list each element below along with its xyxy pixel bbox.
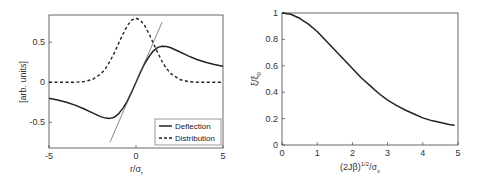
right-ytick-label: 1 <box>273 8 278 18</box>
right-xlabel-sub: x <box>377 168 380 174</box>
right-ylabel: ξ/ξ0 <box>250 71 262 86</box>
right-xtick-label: 4 <box>420 148 425 158</box>
left-chart: -505-0.500.5 Deflection Distribution [ar… <box>18 15 226 176</box>
left-xlabel-main: r/σ <box>130 164 141 174</box>
right-xlabel: (2Jβ)1/2/σx <box>340 161 380 174</box>
left-ytick-label: 0.5 <box>32 37 45 47</box>
left-ytick-label: -0.5 <box>29 117 45 127</box>
right-ytick-label: 0.8 <box>265 34 278 44</box>
left-ylabel: [arb. units] <box>18 61 28 103</box>
left-xtick-label: -5 <box>45 151 53 161</box>
left-xtick-label: 0 <box>133 151 138 161</box>
right-ticks: 01234500.20.40.60.81 <box>265 8 460 158</box>
right-ytick-label: 0.4 <box>265 87 278 97</box>
right-xtick-label: 0 <box>279 148 284 158</box>
right-ylabel-sub: 0 <box>256 71 262 75</box>
right-xtick-label: 2 <box>350 148 355 158</box>
left-xlabel-sub: r <box>141 170 143 176</box>
legend-label-deflection: Deflection <box>175 122 211 131</box>
right-ytick-label: 0.2 <box>265 114 278 124</box>
legend: Deflection Distribution <box>155 119 221 145</box>
left-ytick-label: 0 <box>40 77 45 87</box>
right-xlabel-main: (2Jβ) <box>340 162 361 172</box>
right-ytick-label: 0.6 <box>265 61 278 71</box>
right-plot-frame <box>282 13 458 145</box>
left-series-distribution <box>49 18 223 82</box>
left-series-tangent <box>110 22 162 142</box>
right-xtick-label: 3 <box>385 148 390 158</box>
right-chart: 01234500.20.40.60.81 ξ/ξ0 (2Jβ)1/2/σx <box>250 8 461 174</box>
right-xtick-label: 5 <box>455 148 460 158</box>
right-lines <box>282 13 455 125</box>
right-ytick-label: 0 <box>273 140 278 150</box>
right-ylabel-main: ξ/ξ <box>250 75 260 86</box>
left-xtick-label: 5 <box>220 151 225 161</box>
right-xtick-label: 1 <box>315 148 320 158</box>
right-series--0 <box>282 13 455 125</box>
figure: -505-0.500.5 Deflection Distribution [ar… <box>0 0 479 185</box>
left-xlabel: r/σr <box>130 164 143 176</box>
legend-label-distribution: Distribution <box>175 134 215 143</box>
